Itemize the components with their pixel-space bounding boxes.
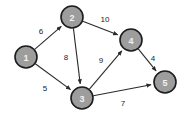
- graph-node-label-4: 4: [128, 36, 133, 46]
- graph-node-1: 1: [15, 46, 37, 68]
- edge-weight-2-3: 8: [64, 53, 69, 62]
- graph-node-label-5: 5: [162, 78, 167, 88]
- graph-edge-3-to-5: [93, 85, 151, 96]
- edge-weight-3-4: 9: [99, 56, 104, 65]
- graph-canvas: 65108974 12345: [0, 0, 186, 120]
- graph-edge-3-to-4: [89, 51, 121, 89]
- graph-node-2: 2: [61, 6, 83, 28]
- graph-node-5: 5: [154, 71, 176, 93]
- edge-weight-1-3: 5: [43, 84, 48, 93]
- edge-weight-1-2: 6: [39, 27, 44, 36]
- graph-edge-2-to-3: [73, 28, 80, 83]
- graph-node-label-1: 1: [23, 53, 28, 63]
- graph-node-3: 3: [71, 87, 93, 109]
- edge-weight-3-5: 7: [121, 99, 126, 108]
- graph-node-label-2: 2: [69, 13, 74, 23]
- edge-weight-labels-layer: 65108974: [39, 15, 156, 108]
- edge-weight-2-4: 10: [101, 15, 110, 24]
- graph-node-label-3: 3: [79, 94, 84, 104]
- graph-node-4: 4: [120, 29, 142, 51]
- edge-weight-4-5: 4: [151, 54, 156, 63]
- graph-edge-1-to-3: [35, 64, 70, 90]
- graph-diagram: 65108974 12345: [0, 0, 186, 120]
